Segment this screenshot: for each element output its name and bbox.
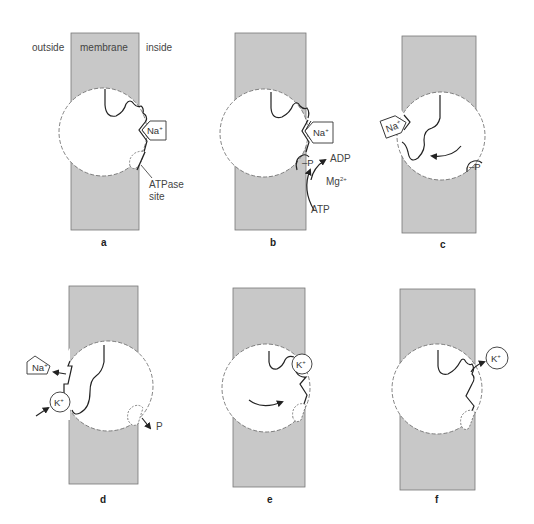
panel-b: Na+ –P ADP Mg2+ ATP b	[220, 33, 351, 248]
panel-label-e: e	[267, 494, 273, 505]
panel-label-c: c	[440, 239, 446, 250]
k-entry-arrow	[36, 408, 48, 416]
atp-label: ATP	[311, 204, 330, 215]
na-ion: Na+	[27, 356, 50, 374]
phosphate-label: P	[156, 421, 163, 432]
panel-f: K+ f	[392, 289, 508, 505]
phosphate-label: –P	[302, 157, 314, 168]
panel-label-d: d	[100, 494, 106, 505]
site-label: site	[149, 191, 165, 202]
phosphate-label: –P	[469, 161, 481, 172]
panel-label-b: b	[270, 237, 276, 248]
panel-e: K+ e	[222, 288, 312, 505]
atpase-label: ATPase	[149, 179, 184, 190]
panel-c: Na+ –P c	[380, 36, 485, 250]
p-release-arrow	[142, 418, 150, 428]
outside-label: outside	[32, 42, 65, 53]
k-ion: K+	[292, 354, 312, 374]
na-k-pump-diagram: Na+ ATPase site outside membrane inside …	[0, 0, 534, 524]
panel-label-a: a	[101, 237, 107, 248]
membrane-label: membrane	[80, 42, 128, 53]
k-ion: K+	[486, 347, 508, 369]
panel-label-f: f	[435, 494, 439, 505]
inside-label: inside	[146, 42, 173, 53]
pump-protein	[220, 89, 308, 177]
adp-label: ADP	[330, 153, 351, 164]
k-ion: K+	[50, 392, 70, 412]
mg-label: Mg2+	[326, 176, 347, 187]
na-ion: Na+	[305, 122, 333, 143]
panel-d: Na+ K+ P d	[27, 286, 163, 505]
panel-a: Na+ ATPase site outside membrane inside …	[32, 33, 184, 248]
